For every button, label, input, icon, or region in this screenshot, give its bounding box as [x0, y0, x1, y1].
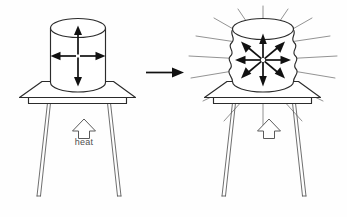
right-table-edge — [214, 98, 312, 104]
left-table-legs — [37, 103, 121, 196]
right-panel-group — [189, 6, 337, 196]
heat-label: heat — [62, 137, 106, 147]
right-heat-arrow — [258, 119, 281, 139]
figure-canvas — [0, 0, 347, 217]
process-arrow-head — [172, 68, 184, 78]
left-heat-arrow — [73, 119, 96, 139]
process-arrow-group — [146, 68, 184, 78]
right-table-legs — [222, 103, 306, 196]
thermal-expansion-figure: heat — [0, 0, 347, 217]
left-panel-group — [20, 19, 136, 197]
left-table-edge — [29, 98, 127, 104]
